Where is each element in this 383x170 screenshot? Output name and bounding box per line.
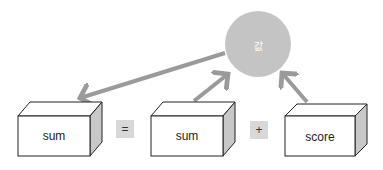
- plus-operator: +: [250, 121, 268, 139]
- circle-label: 값: [243, 38, 273, 53]
- arrow-from-score: [282, 73, 307, 102]
- box-label-sum-right: sum: [151, 129, 223, 143]
- box-label-score: score: [285, 130, 355, 144]
- diagram-canvas: [0, 0, 383, 170]
- box-label-sum-left: sum: [18, 129, 90, 143]
- equals-operator: =: [116, 120, 134, 138]
- arrow-from-sum-right: [194, 74, 228, 101]
